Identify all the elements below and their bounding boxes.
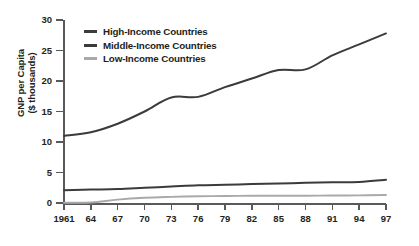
gnp-per-capita-line-chart: GNP per Capita ($ thousands) 05101520253…: [0, 0, 419, 246]
plot-area: [0, 0, 419, 246]
series-line-high-income: [64, 33, 386, 135]
series-line-low-income: [64, 195, 386, 203]
series-line-middle-income: [64, 180, 386, 190]
